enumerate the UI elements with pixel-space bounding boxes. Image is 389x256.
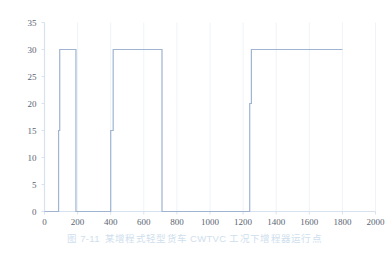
line-chart: 05101520253035 0200400600800100012001400… [0,0,389,232]
x-axis-tick-label: 1200 [234,217,253,227]
x-axis-tick-label: 1400 [267,217,286,227]
y-axis-tick-label: 35 [28,18,38,28]
x-axis-tick-label: 200 [71,217,85,227]
caption-text: 某增程式轻型货车 CWTVC 工况下增程器运行点 [105,233,322,244]
y-axis-tick-label: 15 [28,126,38,136]
x-axis-tick-label: 600 [137,217,151,227]
x-axis-tick-label: 2000 [367,217,386,227]
figure-caption: 图 7-11某增程式轻型货车 CWTVC 工况下增程器运行点 [0,231,389,245]
caption-number: 图 7-11 [67,233,100,244]
x-axis-tick-label: 1600 [300,217,319,227]
x-axis-tick-label: 1000 [201,217,220,227]
y-axis-tick-label: 20 [28,99,38,109]
y-axis-tick-label: 5 [32,180,37,190]
x-axis-tick-label: 1800 [333,217,352,227]
y-axis-tick-label: 10 [28,153,38,163]
x-axis-tick-label: 400 [104,217,118,227]
y-axis-tick-label: 0 [32,207,37,217]
x-axis-tick-label: 0 [42,217,47,227]
x-axis-tick-label: 800 [170,217,184,227]
y-axis-tick-label: 25 [28,72,38,82]
y-axis-tick-label: 30 [28,45,38,55]
chart-figure: 05101520253035 0200400600800100012001400… [0,0,389,232]
figure-page: 05101520253035 0200400600800100012001400… [0,0,389,256]
